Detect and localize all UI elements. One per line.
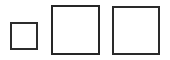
diagram-canvas [0, 0, 170, 60]
large-square [112, 6, 160, 55]
small-square [10, 22, 38, 50]
medium-square [51, 5, 100, 55]
